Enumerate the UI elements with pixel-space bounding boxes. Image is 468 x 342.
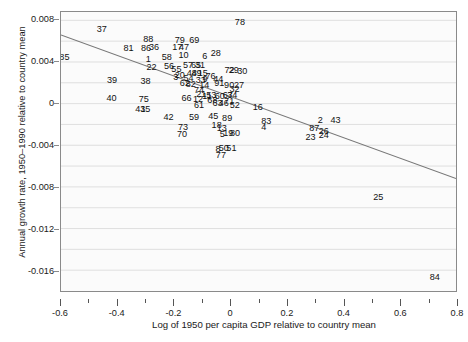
data-point: 91 xyxy=(214,79,224,88)
data-point: 42 xyxy=(163,114,173,123)
x-tick-label: -0.2 xyxy=(151,308,195,318)
x-tick-mark xyxy=(259,299,260,303)
data-point: 40 xyxy=(106,94,116,103)
data-point: 25 xyxy=(373,193,383,202)
plot-canvas xyxy=(61,12,456,291)
data-point: 52 xyxy=(230,101,240,110)
x-tick-mark xyxy=(88,299,89,303)
data-point: 28 xyxy=(211,49,221,58)
x-tick-mark xyxy=(60,299,61,306)
x-axis-title: Log of 1950 per capita GDP relative to c… xyxy=(60,319,468,330)
x-tick-mark xyxy=(400,299,401,306)
y-tick-mark xyxy=(54,271,59,272)
x-tick-label: -0.4 xyxy=(95,308,139,318)
data-point: 89 xyxy=(222,114,232,123)
data-point: 75 xyxy=(139,96,149,105)
y-tick-label: 0.004 xyxy=(8,56,54,66)
x-axis-tick-labels: -0.6-0.4-0.200.20.40.60.8 xyxy=(0,299,468,317)
y-tick-mark xyxy=(54,145,59,146)
data-point: 36 xyxy=(149,43,159,52)
x-tick-mark xyxy=(344,299,345,306)
data-point: 10 xyxy=(178,51,188,60)
y-tick-label: 0.008 xyxy=(8,14,54,24)
y-tick-label: -0.012 xyxy=(8,224,54,234)
y-tick-mark xyxy=(54,61,59,62)
plot-area: 8537818886361225879174710695655576531628… xyxy=(60,11,457,292)
data-point: 85 xyxy=(60,53,69,62)
x-tick-mark xyxy=(429,299,430,303)
data-point: 61 xyxy=(194,102,204,111)
y-tick-label: -0.016 xyxy=(8,266,54,276)
x-tick-label: 0.2 xyxy=(265,308,309,318)
data-point: 66 xyxy=(182,94,192,103)
x-tick-mark xyxy=(287,299,288,306)
data-point: 35 xyxy=(140,105,150,114)
data-point: 59 xyxy=(189,114,199,123)
x-tick-label: 0 xyxy=(208,308,252,318)
data-point: 43 xyxy=(330,117,340,126)
y-tick-mark xyxy=(54,187,59,188)
x-tick-mark xyxy=(145,299,146,303)
x-tick-label: -0.6 xyxy=(38,308,82,318)
data-point: 4 xyxy=(261,124,266,133)
data-point: 80 xyxy=(230,129,240,138)
scatter-plot-figure: Annual growth rate, 1950–1990 relative t… xyxy=(0,0,468,342)
y-tick-mark xyxy=(54,19,59,20)
data-point: 78 xyxy=(235,19,245,28)
data-point: 16 xyxy=(253,104,263,113)
y-tick-label: -0.004 xyxy=(8,140,54,150)
y-tick-mark xyxy=(54,103,59,104)
data-point: 77 xyxy=(216,151,226,160)
x-tick-mark xyxy=(457,299,458,306)
data-point: 39 xyxy=(107,77,117,86)
x-tick-mark xyxy=(117,299,118,306)
data-point: 23 xyxy=(305,133,315,142)
x-tick-label: 0.6 xyxy=(378,308,422,318)
x-tick-mark xyxy=(173,299,174,306)
x-tick-label: 0.4 xyxy=(322,308,366,318)
data-point: 30 xyxy=(237,68,247,77)
data-point: 69 xyxy=(189,36,199,45)
data-point: 51 xyxy=(226,145,236,154)
data-point: 6 xyxy=(202,53,207,62)
y-tick-label: -0.008 xyxy=(8,182,54,192)
x-tick-mark xyxy=(315,299,316,303)
data-point: 24 xyxy=(319,132,329,141)
data-point: 70 xyxy=(177,130,187,139)
x-tick-label: 0.8 xyxy=(435,308,468,318)
data-point: 37 xyxy=(97,25,107,34)
x-tick-mark xyxy=(372,299,373,303)
y-tick-label: 0 xyxy=(8,98,54,108)
data-point: 38 xyxy=(140,77,150,86)
data-point: 84 xyxy=(430,273,440,282)
x-tick-mark xyxy=(202,299,203,303)
data-point: 81 xyxy=(123,44,133,53)
y-axis-tick-labels: 0.0080.0040-0.004-0.008-0.012-0.016 xyxy=(6,0,54,342)
data-point: 22 xyxy=(146,63,156,72)
x-tick-mark xyxy=(230,299,231,306)
gridlines xyxy=(61,20,456,270)
y-tick-mark xyxy=(54,229,59,230)
